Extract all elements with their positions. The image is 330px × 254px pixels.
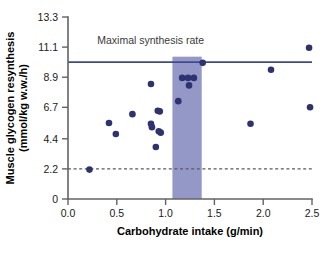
y-tick-label-2: 4.4 <box>43 133 58 145</box>
data-point <box>175 98 182 105</box>
x-tick-label-0: 0.0 <box>61 207 76 219</box>
data-point <box>185 75 192 82</box>
x-axis-title: Carbohydrate intake (g/min) <box>117 225 263 237</box>
data-point <box>106 120 113 127</box>
y-axis-title-line2: (mmol/kg w.w./h) <box>17 64 29 152</box>
y-axis-tick-labels: 0 2.2 4.4 6.7 8.9 11.1 13.3 <box>38 11 59 205</box>
x-axis-ticks <box>68 199 312 205</box>
x-tick-label-5: 2.5 <box>305 207 320 219</box>
y-axis-title-line1: Muscle glycogen resynthesis <box>4 32 16 185</box>
data-point <box>129 111 136 118</box>
data-point <box>153 144 160 151</box>
x-tick-label-1: 0.5 <box>109 207 124 219</box>
y-tick-label-5: 11.1 <box>38 41 58 53</box>
data-point <box>199 60 206 67</box>
data-point <box>148 81 155 88</box>
y-tick-label-6: 13.3 <box>38 11 59 23</box>
data-point <box>86 166 93 173</box>
data-point <box>113 131 120 138</box>
y-tick-label-4: 8.9 <box>43 71 58 83</box>
chart-figure: Maximal synthesis rate 0 2.2 4.4 6.7 8.9… <box>0 0 330 254</box>
y-tick-label-0: 0 <box>52 193 58 205</box>
data-point <box>306 44 313 51</box>
data-point <box>149 124 156 131</box>
data-point <box>157 129 164 136</box>
maximal-synthesis-rate-label: Maximal synthesis rate <box>97 34 204 46</box>
data-point <box>268 66 275 73</box>
scatter-plot-svg: Maximal synthesis rate 0 2.2 4.4 6.7 8.9… <box>0 0 330 254</box>
data-point <box>186 82 193 89</box>
x-tick-label-2: 1.0 <box>158 207 173 219</box>
data-point <box>307 104 314 111</box>
y-tick-label-1: 2.2 <box>43 163 58 175</box>
data-point <box>179 75 186 82</box>
x-tick-label-3: 1.5 <box>207 207 222 219</box>
data-point <box>156 108 163 115</box>
y-tick-label-3: 6.7 <box>43 101 58 113</box>
data-point <box>191 75 198 82</box>
x-tick-label-4: 2.0 <box>256 207 271 219</box>
y-axis-ticks <box>62 17 68 199</box>
x-axis-tick-labels: 0.0 0.5 1.0 1.5 2.0 2.5 <box>61 207 320 219</box>
data-point <box>247 120 254 127</box>
